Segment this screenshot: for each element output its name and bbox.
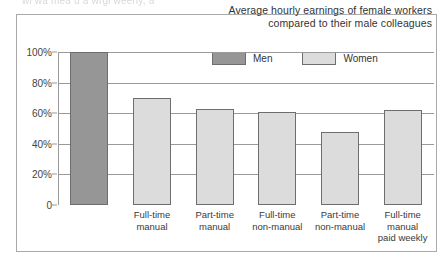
y-tick-label: 0: [46, 200, 52, 211]
x-axis-label-line: non-manual: [305, 221, 376, 233]
x-axis-label-line: Full-time: [242, 209, 313, 221]
x-axis-label-line: manual: [117, 221, 188, 233]
y-tick-mark: [52, 174, 57, 175]
y-tick-mark: [52, 82, 57, 83]
x-axis-label-3: Part-timemanual: [179, 209, 250, 232]
bar-6: [384, 110, 422, 205]
y-tick-label: 20%: [32, 169, 52, 180]
y-tick-label: 80%: [32, 77, 52, 88]
x-axis-label-line: manual: [367, 221, 438, 233]
x-axis-label-2: Full-timemanual: [117, 209, 188, 232]
x-axis-label-line: Part-time: [179, 209, 250, 221]
y-tick-label: 100%: [26, 47, 52, 58]
y-tick-label: 40%: [32, 138, 52, 149]
y-tick-label: 60%: [32, 108, 52, 119]
y-tick-mark: [52, 143, 57, 144]
x-axis-label-6: Full-timemanualpaid weekly: [367, 209, 438, 244]
x-axis-label-line: Full-time: [117, 209, 188, 221]
x-axis-label-5: Part-timenon-manual: [305, 209, 376, 232]
bar-2: [133, 98, 171, 205]
chart-figure: wi wa mea u a wrgi weeny, a Average hour…: [0, 0, 448, 267]
chart-title-line-1: Average hourly earnings of female worker…: [228, 4, 432, 16]
x-axis-label-line: Part-time: [305, 209, 376, 221]
bar-5: [321, 132, 359, 205]
x-axis-label-line: manual: [179, 221, 250, 233]
bar-1: [70, 52, 108, 205]
x-axis-label-line: non-manual: [242, 221, 313, 233]
bar-4: [258, 112, 296, 205]
bar-3: [196, 109, 234, 205]
x-axis-labels: Full-timemanualPart-timemanualFull-timen…: [58, 209, 434, 251]
y-tick-mark: [52, 205, 57, 206]
chart-title-line-2: compared to their male colleagues: [182, 17, 432, 30]
bar-series: [58, 52, 434, 205]
y-tick-mark: [52, 52, 57, 53]
plot-area: 100%80%60%40%20%0: [58, 52, 434, 205]
x-axis-label-4: Full-timenon-manual: [242, 209, 313, 232]
chart-title: Average hourly earnings of female worker…: [182, 4, 432, 30]
x-axis-label-line: paid weekly: [367, 232, 438, 244]
x-axis-label-line: Full-time: [367, 209, 438, 221]
y-tick-mark: [52, 113, 57, 114]
